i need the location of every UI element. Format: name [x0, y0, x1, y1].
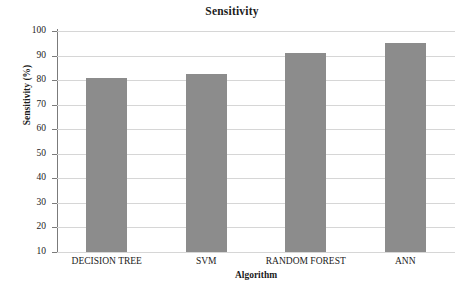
x-axis-title: Algorithm	[57, 270, 455, 280]
y-tick-label: 100	[6, 26, 46, 36]
bar	[385, 43, 426, 252]
y-tick-mark	[52, 178, 57, 179]
chart-title: Sensitivity	[0, 5, 464, 17]
bar-chart: Sensitivity Sensitivity (%) 102030405060…	[0, 0, 464, 294]
y-tick-mark	[52, 31, 57, 32]
bar	[186, 74, 227, 252]
y-tick-mark	[52, 227, 57, 228]
bar	[86, 78, 127, 252]
y-tick-label: 50	[6, 149, 46, 159]
y-tick-label: 80	[6, 75, 46, 85]
y-tick-label: 90	[6, 51, 46, 61]
bar	[285, 53, 326, 252]
y-tick-mark	[52, 105, 57, 106]
y-tick-mark	[52, 252, 57, 253]
y-tick-mark	[52, 154, 57, 155]
y-tick-label: 40	[6, 173, 46, 183]
x-tick-label: ANN	[335, 256, 464, 266]
y-tick-label: 70	[6, 100, 46, 110]
y-tick-label: 30	[6, 198, 46, 208]
y-tick-mark	[52, 80, 57, 81]
y-tick-label: 20	[6, 222, 46, 232]
plot-area	[57, 31, 455, 252]
y-axis-title: Sensitivity (%)	[22, 20, 32, 170]
y-tick-mark	[52, 56, 57, 57]
gridline	[57, 252, 455, 253]
gridline	[57, 31, 455, 32]
y-tick-mark	[52, 129, 57, 130]
y-tick-label: 60	[6, 124, 46, 134]
y-tick-mark	[52, 203, 57, 204]
